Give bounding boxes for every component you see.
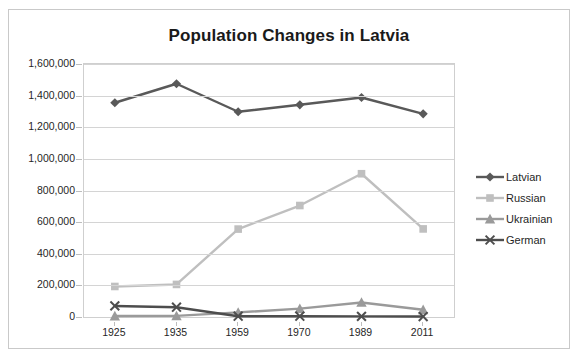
gridline [84,127,454,128]
x-axis-tick-label: 1925 [102,326,125,338]
plot-area [83,63,455,318]
y-axis-tick [76,285,82,286]
data-point-marker-diamond [419,109,428,118]
gridline [84,96,454,97]
legend-item-russian[interactable]: Russian [475,187,571,208]
chart-container: Population Changes in Latvia 0200,000400… [8,9,570,349]
legend-item-latvian[interactable]: Latvian [475,166,571,187]
gridline [84,159,454,160]
data-point-marker-diamond [485,172,494,181]
chart-title: Population Changes in Latvia [9,26,569,46]
y-axis-tick [76,191,82,192]
data-point-marker-diamond [357,93,366,102]
legend-item-german[interactable]: German [475,229,571,250]
y-axis-tick [76,317,82,318]
legend-marker-cross-icon [475,233,505,247]
series-line-ukrainian [115,302,423,316]
data-point-marker-diamond [110,98,119,107]
legend-label: Latvian [506,171,541,183]
data-point-marker-square [234,225,242,233]
y-axis-tick [76,254,82,255]
legend-item-ukrainian[interactable]: Ukrainian [475,208,571,229]
data-point-marker-square [296,202,304,210]
data-point-marker-diamond [172,79,181,88]
y-axis-tick [76,222,82,223]
y-axis-tick [76,64,82,65]
y-axis-tick-label: 1,600,000 [9,57,75,69]
data-point-marker-square [111,283,119,291]
x-axis-tick-label: 1959 [225,326,248,338]
y-axis-tick-label: 0 [9,310,75,322]
y-axis-tick-label: 800,000 [9,184,75,196]
x-axis-labels: 192519351959197019892011 [83,322,453,342]
gridline [84,191,454,192]
data-point-marker-square [358,170,366,178]
legend-marker-triangle-icon [475,212,505,226]
gridline [84,222,454,223]
y-axis-tick-label: 600,000 [9,215,75,227]
data-point-marker-square [486,194,494,202]
x-axis-tick-label: 1935 [164,326,187,338]
x-axis-tick-label: 2011 [411,326,434,338]
x-axis-tick-label: 1989 [349,326,372,338]
legend-label: Russian [506,192,546,204]
y-axis-tick-label: 1,400,000 [9,89,75,101]
legend-marker-square-icon [475,191,505,205]
x-axis-tick-label: 1970 [287,326,310,338]
y-axis-tick-label: 200,000 [9,278,75,290]
gridline [84,64,454,65]
data-point-marker-diamond [295,100,304,109]
series-line-latvian [115,84,423,114]
y-axis-tick-label: 400,000 [9,247,75,259]
legend-label: Ukrainian [506,213,552,225]
y-axis-tick-label: 1,000,000 [9,152,75,164]
y-axis-tick [76,159,82,160]
chart-legend: Latvian Russian Ukrainian German [475,166,571,250]
legend-marker-diamond-icon [475,170,505,184]
data-point-marker-diamond [234,107,243,116]
y-axis-tick [76,127,82,128]
gridline [84,254,454,255]
legend-label: German [506,234,546,246]
y-axis-tick [76,96,82,97]
y-axis-tick-label: 1,200,000 [9,120,75,132]
gridline [84,285,454,286]
data-point-marker-square [419,225,427,233]
